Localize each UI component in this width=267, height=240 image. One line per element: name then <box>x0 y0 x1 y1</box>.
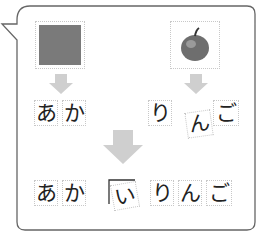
char-box: か <box>62 180 86 206</box>
insert-bracket <box>107 178 137 208</box>
char-box: あ <box>34 180 58 206</box>
arrow-down-icon <box>49 74 73 94</box>
char-box: ご <box>213 100 239 126</box>
arrow-down-icon <box>184 74 208 94</box>
char-box: あ <box>34 100 58 126</box>
char-box: ん <box>184 109 213 138</box>
apple-image <box>170 21 220 69</box>
gray-square-image <box>35 21 85 69</box>
char-box: ご <box>206 180 232 206</box>
arrow-down-big-icon <box>103 130 143 164</box>
apple-icon <box>171 22 219 68</box>
char-box: ん <box>178 180 202 206</box>
char-box: り <box>150 180 174 206</box>
char-box: か <box>62 100 86 126</box>
char-box: り <box>148 100 172 126</box>
